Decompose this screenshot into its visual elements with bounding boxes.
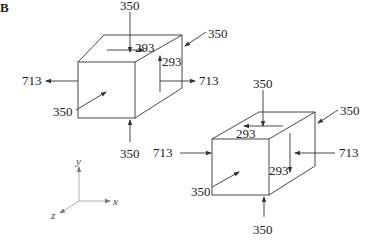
box-1: 350 293 293 350 713 713 350 350 (22, 0, 228, 161)
box-1-front-face (78, 62, 135, 118)
coordinate-axes: y x z (50, 155, 118, 221)
box-1-left-load-label: 713 (22, 73, 42, 88)
box-2-left-load-label: 713 (153, 145, 173, 160)
box-2-top-load-label: 350 (253, 76, 273, 91)
x-axis-label: x (112, 195, 118, 207)
box-1-top-shear-label: 293 (135, 40, 155, 55)
box-2-top-shear-label: 293 (236, 126, 256, 141)
box-2-bottom-load-label: 350 (253, 222, 273, 237)
box-2-back-load-arrow (318, 110, 338, 123)
box-2-right-load-label: 713 (339, 145, 359, 160)
box-2-top-face (212, 112, 315, 139)
box-1-top-load-label: 350 (120, 0, 140, 13)
box-1-back-load-label: 350 (208, 26, 228, 41)
stress-diagram: B 350 293 293 350 713 713 350 350 (0, 0, 377, 248)
z-axis-arrow (60, 201, 79, 213)
box-1-back-load-arrow (185, 32, 206, 46)
box-1-right-load-label: 713 (199, 73, 219, 88)
box-2-front-face (212, 139, 269, 195)
box-1-right-shear-label: 293 (162, 54, 182, 69)
box-2-right-shear-label: 293 (269, 163, 289, 178)
box-2-front-load-label: 350 (191, 184, 211, 199)
box-2-back-load-label: 350 (340, 103, 360, 118)
box-2: 350 293 350 713 713 293 350 350 (153, 76, 360, 237)
box-1-bottom-load-label: 350 (120, 146, 140, 161)
y-axis-label: y (75, 155, 81, 167)
figure-label: B (0, 0, 9, 15)
box-2-front-load-arrow (212, 172, 239, 187)
z-axis-label: z (50, 209, 56, 221)
box-1-front-load-label: 350 (53, 104, 73, 119)
box-2-right-face (269, 112, 315, 195)
box-1-front-load-arrow (76, 92, 106, 110)
